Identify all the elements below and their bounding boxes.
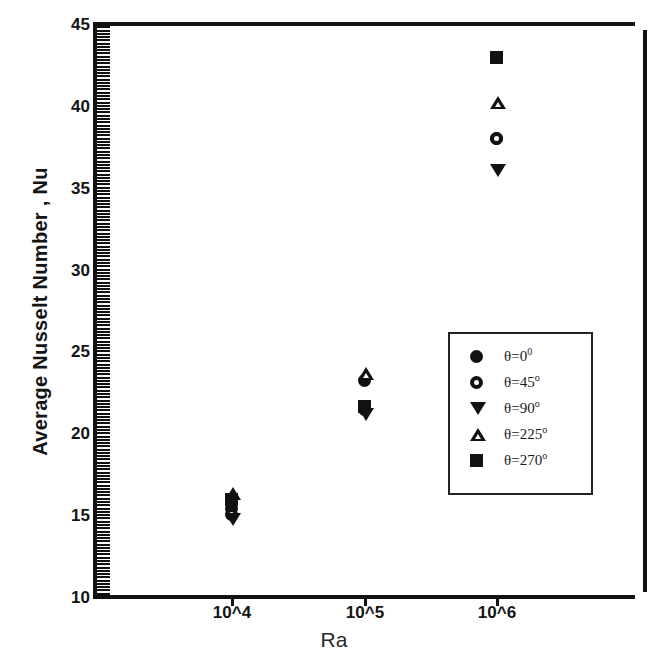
marker-open-triangle-up-icon bbox=[358, 367, 374, 380]
legend-symbol bbox=[468, 422, 486, 448]
y-axis-minor-tick bbox=[97, 226, 110, 228]
y-axis-minor-tick bbox=[97, 282, 110, 284]
y-axis-minor-tick bbox=[97, 206, 110, 208]
y-axis-minor-tick bbox=[97, 30, 110, 32]
marker-triangle-down-icon bbox=[225, 513, 241, 526]
y-axis-minor-tick bbox=[97, 43, 110, 45]
legend-label: θ=90o bbox=[504, 398, 540, 417]
y-axis-minor-tick bbox=[97, 239, 110, 241]
y-axis-minor-tick bbox=[97, 298, 110, 300]
y-axis-minor-tick bbox=[97, 488, 110, 490]
y-axis-minor-tick bbox=[97, 436, 110, 438]
y-axis-minor-tick bbox=[97, 514, 110, 516]
data-point bbox=[225, 493, 238, 506]
y-axis-minor-tick bbox=[97, 563, 110, 565]
y-axis-minor-tick bbox=[97, 308, 110, 310]
y-axis-minor-tick bbox=[97, 475, 110, 477]
data-point bbox=[358, 400, 371, 413]
marker-filled-square-icon bbox=[225, 493, 238, 506]
y-axis-minor-tick bbox=[97, 219, 110, 221]
y-axis-minor-tick bbox=[97, 144, 110, 146]
y-axis-minor-tick bbox=[97, 118, 110, 120]
marker-open-circle-icon bbox=[490, 132, 503, 145]
y-axis-minor-tick bbox=[97, 567, 110, 569]
y-axis-minor-tick bbox=[97, 377, 110, 379]
y-axis-minor-tick bbox=[97, 59, 110, 61]
y-axis-minor-tick bbox=[97, 350, 110, 352]
y-axis-minor-tick bbox=[97, 121, 110, 123]
y-axis-minor-tick bbox=[97, 494, 110, 496]
plot-frame-top bbox=[95, 22, 635, 26]
y-axis-minor-tick bbox=[97, 344, 110, 346]
y-axis-minor-tick bbox=[97, 111, 110, 113]
y-axis-minor-tick bbox=[97, 141, 110, 143]
y-axis-minor-tick bbox=[97, 462, 110, 464]
y-axis-minor-tick bbox=[97, 183, 110, 185]
y-axis-minor-tick bbox=[97, 432, 110, 434]
y-axis-minor-tick bbox=[97, 501, 110, 503]
y-axis-minor-tick bbox=[97, 583, 110, 585]
y-axis-minor-tick bbox=[97, 33, 110, 35]
y-axis-minor-tick bbox=[97, 213, 110, 215]
y-axis-minor-tick bbox=[97, 180, 110, 182]
y-axis-minor-tick bbox=[97, 429, 110, 431]
legend-box: θ=00θ=45oθ=90oθ=225oθ=270o bbox=[448, 332, 593, 495]
legend-label: θ=225o bbox=[504, 424, 547, 443]
y-axis-minor-tick bbox=[97, 472, 110, 474]
y-axis-minor-tick bbox=[97, 570, 110, 572]
y-axis-minor-tick bbox=[97, 409, 110, 411]
y-axis-minor-tick bbox=[97, 524, 110, 526]
y-axis-minor-tick bbox=[97, 596, 110, 598]
y-axis-minor-tick bbox=[97, 580, 110, 582]
y-axis-minor-tick bbox=[97, 242, 110, 244]
y-axis-minor-tick bbox=[97, 393, 110, 395]
y-axis-minor-tick bbox=[97, 400, 110, 402]
y-axis-minor-tick bbox=[97, 210, 110, 212]
legend-item: θ=225o bbox=[450, 422, 595, 448]
y-axis-minor-tick bbox=[97, 373, 110, 375]
y-axis-minor-tick bbox=[97, 39, 110, 41]
legend-label: θ=270o bbox=[504, 450, 547, 469]
y-axis-minor-tick bbox=[97, 547, 110, 549]
x-axis-title: Ra bbox=[0, 628, 668, 652]
y-axis-minor-tick bbox=[97, 131, 110, 133]
y-axis-minor-tick bbox=[97, 517, 110, 519]
y-axis-minor-tick bbox=[97, 341, 110, 343]
y-axis-minor-tick bbox=[97, 105, 110, 107]
legend-symbol bbox=[468, 448, 486, 474]
y-axis-minor-tick bbox=[97, 413, 110, 415]
y-axis-minor-tick bbox=[97, 151, 110, 153]
y-axis-minor-tick bbox=[97, 278, 110, 280]
y-axis-minor-tick bbox=[97, 102, 110, 104]
y-axis-minor-tick bbox=[97, 354, 110, 356]
y-axis-tick-label: 40 bbox=[71, 98, 90, 115]
y-axis-tick-label: 45 bbox=[71, 16, 90, 33]
legend-symbol bbox=[468, 344, 486, 370]
data-point bbox=[225, 513, 241, 526]
y-axis-minor-tick bbox=[97, 314, 110, 316]
y-axis-minor-tick bbox=[97, 46, 110, 48]
y-axis-minor-tick bbox=[97, 203, 110, 205]
y-axis-minor-tick bbox=[97, 442, 110, 444]
y-axis-minor-tick bbox=[97, 419, 110, 421]
scatter-chart-figure: Average Nusselt Number , Nu Ra 454035302… bbox=[0, 0, 668, 671]
y-axis-minor-tick bbox=[97, 386, 110, 388]
y-axis-minor-tick bbox=[97, 167, 110, 169]
y-axis-tick-label: 30 bbox=[71, 262, 90, 279]
y-axis-minor-tick bbox=[97, 390, 110, 392]
y-axis-minor-tick bbox=[97, 85, 110, 87]
y-axis-minor-tick bbox=[97, 534, 110, 536]
legend-item: θ=00 bbox=[450, 344, 595, 370]
x-axis-tick-label: 10^6 bbox=[442, 603, 552, 623]
y-axis-minor-tick bbox=[97, 108, 110, 110]
x-axis-tick-label: 10^4 bbox=[177, 603, 287, 623]
y-axis-minor-tick bbox=[97, 553, 110, 555]
y-axis-minor-tick bbox=[97, 305, 110, 307]
y-axis-minor-tick bbox=[97, 550, 110, 552]
y-axis-minor-tick bbox=[97, 26, 110, 28]
data-point bbox=[490, 96, 506, 109]
y-axis-minor-tick bbox=[97, 259, 110, 261]
y-axis-minor-tick bbox=[97, 92, 110, 94]
y-axis-minor-tick bbox=[97, 560, 110, 562]
y-axis-minor-tick bbox=[97, 301, 110, 303]
